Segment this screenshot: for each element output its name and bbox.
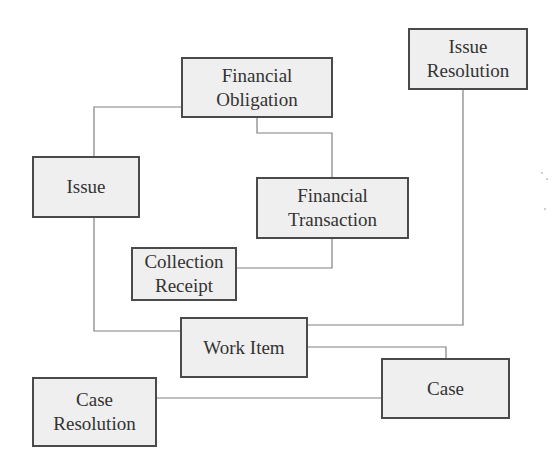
edge-financial-obligation-financial-transaction — [257, 118, 332, 177]
scan-artifact — [544, 208, 546, 210]
node-label: Issue Resolution — [427, 35, 509, 83]
node-issue-resolution: Issue Resolution — [408, 28, 528, 90]
scan-artifact — [546, 178, 548, 180]
node-label: Case — [427, 377, 464, 401]
node-financial-transaction: Financial Transaction — [256, 177, 409, 239]
node-issue: Issue — [32, 156, 140, 218]
edge-financial-obligation-issue — [94, 107, 181, 156]
node-collection-receipt: Collection Receipt — [131, 247, 237, 301]
edge-financial-transaction-collection-receipt — [237, 239, 332, 268]
node-label: Collection Receipt — [144, 250, 223, 298]
node-label: Work Item — [203, 336, 284, 360]
scan-artifact — [541, 172, 543, 174]
node-label: Issue — [66, 175, 105, 199]
node-financial-obligation: Financial Obligation — [181, 57, 333, 118]
node-work-item: Work Item — [180, 317, 308, 378]
node-label: Financial Obligation — [216, 64, 297, 112]
node-label: Case Resolution — [53, 388, 135, 436]
diagram-canvas: Financial Obligation Issue Resolution Is… — [0, 0, 560, 470]
node-case-resolution: Case Resolution — [32, 377, 157, 447]
node-case: Case — [381, 358, 510, 419]
edge-work-item-case — [308, 347, 446, 358]
node-label: Financial Transaction — [288, 184, 377, 232]
